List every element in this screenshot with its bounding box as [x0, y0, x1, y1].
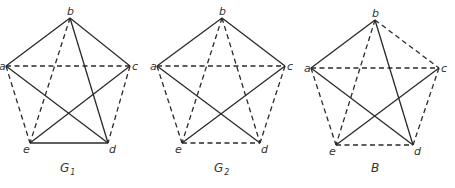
vertex-label-b: b — [372, 7, 379, 20]
edge-b-d-solid — [70, 18, 108, 143]
edge-c-e-solid — [182, 66, 285, 143]
vertex-label-d: d — [414, 145, 422, 158]
caption-main: B — [371, 161, 379, 175]
edge-a-e-dashed — [157, 66, 182, 143]
vertex-label-a: a — [150, 60, 157, 73]
edge-a-e-dashed — [311, 68, 336, 145]
vertex-label-d: d — [109, 143, 117, 156]
edge-a-b-solid — [311, 20, 375, 68]
edge-a-b-solid — [157, 18, 222, 66]
edge-c-e-solid — [30, 66, 130, 143]
caption-b: B — [371, 161, 379, 175]
vertex-label-d: d — [261, 143, 269, 156]
vertex-label-a: a — [304, 62, 311, 75]
edge-a-d-solid — [157, 66, 260, 143]
graph-g2: abcdeG2 — [150, 5, 293, 177]
vertex-label-b: b — [67, 5, 74, 18]
edge-b-d-solid — [375, 20, 413, 145]
graph-b: abcdeB — [304, 7, 447, 175]
vertex-label-e: e — [175, 143, 182, 156]
edge-b-c-solid — [70, 18, 130, 66]
graph-figure: abcdeG1 abcdeG2 abcdeB — [0, 0, 455, 188]
vertex-label-c: c — [287, 60, 293, 73]
vertex-label-e: e — [329, 145, 336, 158]
edge-b-c-solid — [222, 18, 285, 66]
edge-c-d-dashed — [108, 66, 130, 143]
edge-b-d-dashed — [222, 18, 260, 143]
vertex-label-c: c — [132, 60, 138, 73]
vertex-label-e: e — [23, 143, 30, 156]
edge-a-d-solid — [6, 66, 108, 143]
edge-c-d-dashed — [413, 68, 439, 145]
edge-b-e-dashed — [182, 18, 222, 143]
edge-a-e-dashed — [6, 66, 30, 143]
caption-subscript: 1 — [70, 168, 75, 177]
edge-c-e-solid — [336, 68, 439, 145]
caption-main: G — [60, 161, 69, 175]
vertex-label-c: c — [441, 62, 447, 75]
edge-b-e-dashed — [336, 20, 375, 145]
edge-c-d-dashed — [260, 66, 285, 143]
graph-g1: abcdeG1 — [0, 5, 138, 177]
caption-main: G — [214, 161, 223, 175]
edge-a-b-solid — [6, 18, 70, 66]
caption-g2: G2 — [214, 161, 229, 177]
edge-b-e-dashed — [30, 18, 70, 143]
caption-subscript: 2 — [224, 168, 229, 177]
vertex-label-b: b — [219, 5, 226, 18]
vertex-label-a: a — [0, 60, 6, 73]
edge-b-c-dashed — [375, 20, 439, 68]
edge-a-d-solid — [311, 68, 413, 145]
caption-g1: G1 — [60, 161, 75, 177]
